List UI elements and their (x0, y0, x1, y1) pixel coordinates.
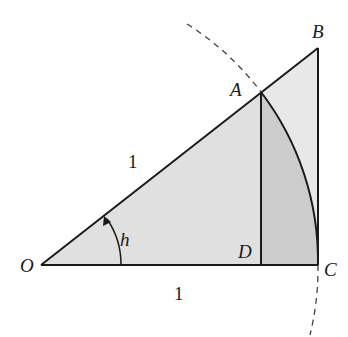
label-A: A (228, 79, 242, 100)
label-angle-h: h (120, 229, 130, 250)
label-hypotenuse-length: 1 (128, 151, 138, 172)
geometry-diagram: O A B C D 1 1 h (0, 0, 348, 337)
label-base-length: 1 (174, 283, 184, 304)
label-O: O (20, 255, 34, 276)
label-D: D (237, 241, 252, 262)
unit-circle-arc-lower (310, 265, 318, 335)
label-B: B (312, 21, 324, 42)
label-C: C (324, 259, 337, 280)
unit-circle-arc-upper (187, 24, 261, 92)
